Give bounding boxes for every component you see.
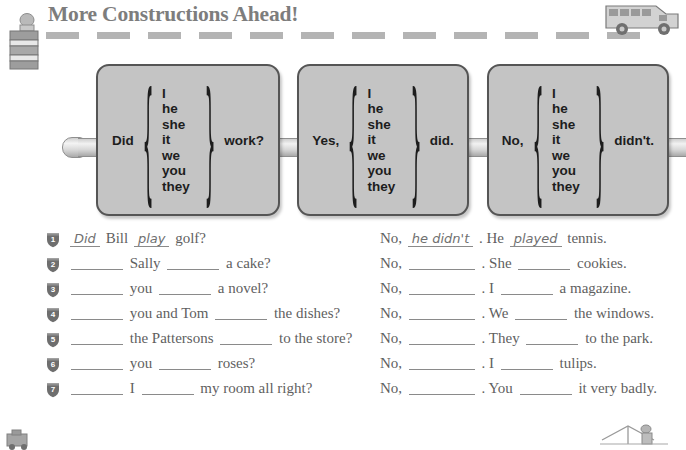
response-blank[interactable] (526, 344, 578, 345)
question-blank[interactable] (159, 369, 211, 370)
response-text: the windows. (570, 305, 654, 321)
exercise-row: 1Did Bill play golf? No, he didn't . He … (0, 228, 685, 253)
response-blank[interactable] (409, 344, 475, 345)
response-answer[interactable]: played (510, 231, 562, 247)
response-text: No, (380, 230, 406, 246)
grammar-box-question: Did { I he she it we you they } work? (96, 64, 280, 216)
road-dash (403, 32, 436, 39)
road-dash (556, 32, 589, 39)
question-blank[interactable] (220, 344, 272, 345)
grammar-box-affirmative: Yes, { I he she it we you they } did. (297, 64, 469, 216)
question-text: Bill (102, 230, 132, 246)
exercise-response: No, . I tulips. (380, 355, 597, 372)
question-blank[interactable] (71, 319, 123, 320)
response-text: No, (380, 330, 406, 346)
response-blank[interactable] (409, 394, 475, 395)
exercise-list: 1Did Bill play golf? No, he didn't . He … (0, 228, 685, 403)
response-text: No, (380, 305, 406, 321)
response-blank[interactable] (501, 369, 553, 370)
response-text: cookies. (573, 255, 626, 271)
question-blank[interactable] (167, 269, 219, 270)
pronoun-item: it (552, 132, 586, 148)
question-blank[interactable] (142, 394, 194, 395)
school-bus-icon (604, 2, 682, 38)
pronoun-item: you (552, 163, 586, 179)
pronoun-item: she (552, 117, 586, 133)
pronoun-list: I he she it we you they (364, 86, 406, 195)
response-text: to the park. (581, 330, 653, 346)
road-dash (199, 32, 232, 39)
response-text: . They (478, 330, 524, 346)
response-blank[interactable] (409, 319, 475, 320)
response-text: . He (475, 230, 508, 246)
question-blank[interactable] (71, 394, 123, 395)
response-blank[interactable] (515, 319, 567, 320)
question-text: the Pattersons (126, 330, 217, 346)
response-text: . You (478, 380, 517, 396)
response-blank[interactable] (409, 369, 475, 370)
pronoun-item: he (368, 101, 402, 117)
pronoun-list: I he she it we you they (158, 86, 200, 195)
pronoun-item: we (368, 148, 402, 164)
road-dash (301, 32, 334, 39)
question-blank[interactable] (159, 294, 211, 295)
brace-open-icon: { (142, 74, 153, 207)
question-blank[interactable] (71, 269, 123, 270)
exercise-question: you a novel? (68, 280, 268, 297)
grammar-box-lead: Did (108, 133, 138, 148)
exercise-number: 6 (46, 360, 60, 369)
response-blank[interactable] (409, 269, 475, 270)
question-answer[interactable]: play (134, 231, 170, 247)
pronoun-item: she (162, 117, 196, 133)
response-text: No, (380, 380, 406, 396)
exercise-number: 2 (46, 260, 60, 269)
response-blank[interactable] (409, 294, 475, 295)
question-blank[interactable] (71, 294, 123, 295)
grammar-box-negative: No, { I he she it we you they } didn't. (487, 64, 669, 216)
page-header: More Constructions Ahead! (0, 0, 685, 52)
response-blank[interactable] (518, 269, 570, 270)
road-dash (250, 32, 283, 39)
exercise-question: you roses? (68, 355, 255, 372)
response-blank[interactable] (520, 394, 572, 395)
question-text: a novel? (214, 280, 268, 296)
question-answer[interactable]: Did (70, 231, 100, 247)
response-text: tulips. (556, 355, 597, 371)
pronoun-item: they (162, 179, 196, 195)
question-text: you and Tom (126, 305, 212, 321)
pronoun-item: we (162, 148, 196, 164)
road-dash-divider (46, 32, 680, 39)
road-dash (46, 32, 79, 39)
response-text: a magazine. (556, 280, 631, 296)
question-text: golf? (171, 230, 206, 246)
question-text: you (126, 280, 156, 296)
road-worker-icon (598, 420, 670, 450)
question-text: roses? (214, 355, 255, 371)
grammar-box-tail: did. (426, 133, 458, 148)
exercise-response: No, . We the windows. (380, 305, 654, 322)
question-blank[interactable] (215, 319, 267, 320)
pronoun-item: it (368, 132, 402, 148)
response-answer[interactable]: he didn't (408, 231, 473, 247)
response-text: . We (478, 305, 512, 321)
brace-open-icon: { (532, 74, 543, 207)
exercise-question: I my room all right? (68, 380, 312, 397)
response-blank[interactable] (501, 294, 553, 295)
exercise-row: 5 the Pattersons to the store? No, . The… (0, 328, 685, 353)
pronoun-item: they (552, 179, 586, 195)
pronoun-item: it (162, 132, 196, 148)
pronoun-item: he (162, 101, 196, 117)
road-dash (148, 32, 181, 39)
exercise-question: you and Tom the dishes? (68, 305, 340, 322)
grammar-box-lead: Yes, (308, 133, 343, 148)
grammar-box-tail: didn't. (610, 133, 658, 148)
pronoun-list: I he she it we you they (548, 86, 590, 195)
question-text: Sally (126, 255, 164, 271)
pronoun-item: you (162, 163, 196, 179)
pronoun-item: I (552, 86, 586, 102)
road-dash (97, 32, 130, 39)
question-blank[interactable] (71, 344, 123, 345)
question-blank[interactable] (71, 369, 123, 370)
pronoun-item: they (368, 179, 402, 195)
road-dash (352, 32, 385, 39)
